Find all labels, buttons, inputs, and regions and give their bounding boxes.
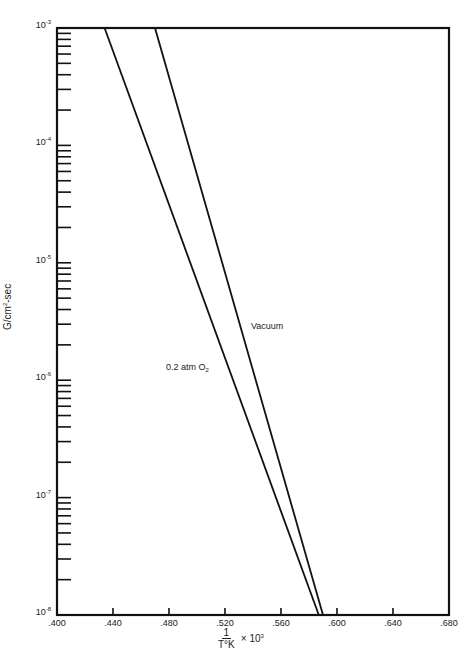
x-tick-label: .440 [104,618,122,628]
y-tick-label: 10-4 [11,136,51,147]
y-axis-label: G/cm2-sec [2,284,13,330]
y-tick-label: 10-6 [11,371,51,382]
data-series [105,28,323,615]
series-label-vacuum: Vacuum [251,321,283,331]
chart-canvas [0,0,469,663]
series-line-vacuum [155,28,323,615]
y-tick-label: 10-3 [11,19,51,30]
series-label-o2: 0.2 atm O2 [166,362,209,373]
y-tick-label: 10-7 [11,489,51,500]
series-line-o2 [105,28,319,615]
x-tick-label: .600 [328,618,346,628]
x-axis-label: 1 T°K × 103 [218,627,264,650]
y-tick-label: 10-5 [11,254,51,265]
y-tick-label: 10-8 [11,606,51,617]
y-minor-ticks [57,33,71,579]
x-tick-label: .640 [384,618,402,628]
x-axis-fraction: 1 T°K [218,627,235,650]
x-tick-label: .680 [440,618,458,628]
x-tick-label: .560 [272,618,290,628]
x-tick-label: .400 [48,618,66,628]
x-tick-label: .480 [160,618,178,628]
